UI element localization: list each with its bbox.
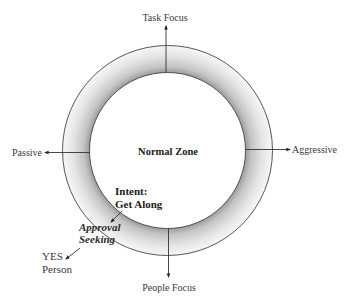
approval-to-yes-arrow: [66, 248, 80, 259]
person-label: Person: [42, 263, 72, 275]
intent-label: Intent:: [115, 185, 147, 197]
normal-zone-label: Normal Zone: [138, 146, 198, 157]
normal-zone-diagram: Task Focus People Focus Passive Aggressi…: [0, 0, 346, 298]
yes-label: YES: [42, 250, 63, 262]
seeking-label: Seeking: [79, 233, 116, 245]
aggressive-label: Aggressive: [292, 144, 338, 155]
passive-label: Passive: [12, 147, 43, 158]
task-focus-label: Task Focus: [142, 12, 187, 23]
people-focus-label: People Focus: [142, 282, 196, 293]
approval-label: Approval: [78, 221, 122, 233]
get-along-label: Get Along: [115, 198, 163, 210]
